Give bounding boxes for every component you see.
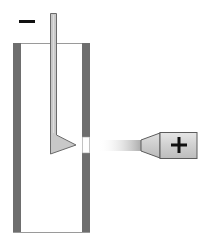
electrode <box>51 14 77 155</box>
negative-terminal-icon <box>19 20 35 23</box>
beam <box>98 140 142 151</box>
tube-right-wall-lower <box>82 153 90 233</box>
tube-right-wall-upper <box>82 43 90 137</box>
probe <box>141 133 197 159</box>
probe-cone <box>141 133 160 158</box>
tube-left-wall <box>13 43 21 233</box>
wall-opening <box>83 137 90 153</box>
diagram-canvas <box>0 0 209 241</box>
